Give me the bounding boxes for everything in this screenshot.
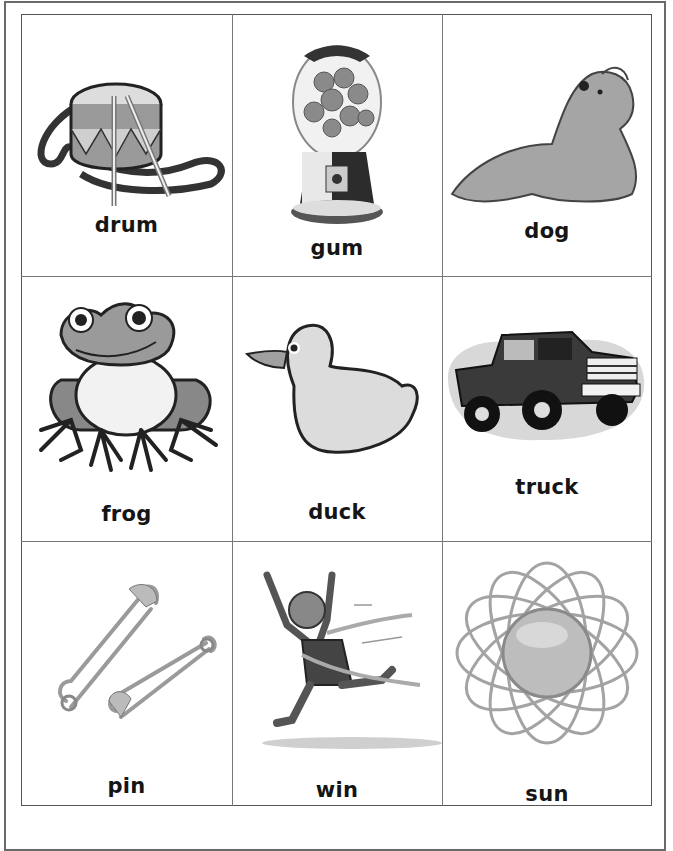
card-gum: gum xyxy=(232,14,442,276)
dog-icon xyxy=(442,44,652,224)
card-pin: pin xyxy=(21,541,232,805)
card-word: frog xyxy=(21,502,232,526)
card-frog: frog xyxy=(21,276,232,541)
safety-pin-icon xyxy=(21,561,232,731)
card-word: duck xyxy=(232,500,442,524)
card-duck: duck xyxy=(232,276,442,541)
card-drum: drum xyxy=(21,14,232,276)
card-word: gum xyxy=(232,236,442,260)
truck-icon xyxy=(442,310,652,450)
card-word: win xyxy=(232,778,442,802)
drum-icon xyxy=(21,34,232,234)
card-win: win xyxy=(232,541,442,805)
card-word: truck xyxy=(442,475,652,499)
duck-icon xyxy=(232,276,442,476)
sun-icon xyxy=(442,553,652,753)
card-word: drum xyxy=(21,213,232,237)
gumball-machine-icon xyxy=(232,34,442,234)
card-word: pin xyxy=(21,774,232,798)
card-dog: dog xyxy=(442,14,652,276)
card-word: sun xyxy=(442,782,652,806)
card-truck: truck xyxy=(442,276,652,541)
frog-icon xyxy=(21,280,232,480)
card-sun: sun xyxy=(442,541,652,805)
card-word: dog xyxy=(442,219,652,243)
runner-winning-icon xyxy=(232,545,442,750)
